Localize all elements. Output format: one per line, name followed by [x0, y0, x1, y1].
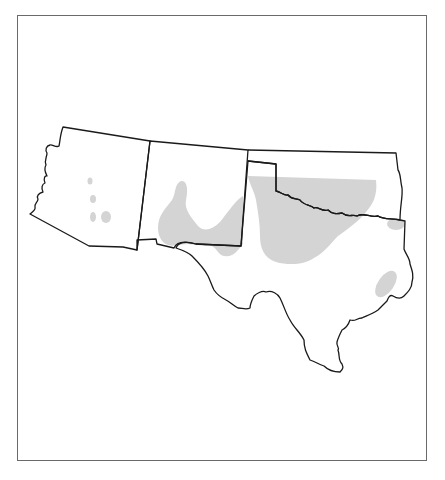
- range-patch-az-4: [101, 211, 111, 223]
- distribution-map: [0, 0, 445, 480]
- range-patch-az-2: [90, 195, 96, 203]
- range-patch-tx-e: [371, 267, 401, 301]
- range-shading: [88, 176, 406, 301]
- range-ok-tx: [248, 176, 376, 264]
- range-patch-az-3: [90, 212, 96, 222]
- range-patch-az-1: [88, 178, 93, 185]
- state-arizona: [30, 127, 150, 250]
